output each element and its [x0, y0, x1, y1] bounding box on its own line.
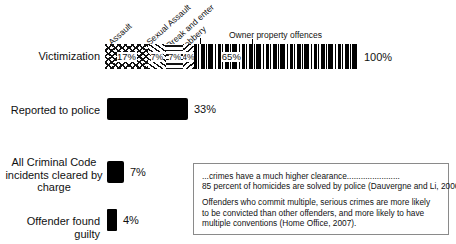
note-paragraph2-line2: to be convicted than other offenders, an…	[202, 208, 440, 218]
note-paragraph2-line3: multiple conventions (Home Office, 2007)…	[202, 218, 440, 228]
segment-callout-owner-property-offences: Owner property offences	[229, 31, 322, 40]
note-paragraph1-line1: ...crimes have a much higher clearance..…	[202, 171, 440, 181]
segment-value-sexual-assault: 7%	[151, 52, 163, 62]
row-label-victimization: Victimization	[8, 50, 100, 63]
segment-robbery: 4%	[183, 44, 193, 69]
row-label-reported-to-police: Reported to police	[8, 104, 100, 117]
row-label-cleared-by-charge: All Criminal Code incidents cleared by c…	[4, 156, 104, 194]
bar-cleared-by-charge	[107, 161, 124, 183]
victimization-stacked-bar: 17% 7% 7% 4% 65%	[105, 44, 358, 69]
row-value-victimization: 100%	[364, 52, 392, 63]
row-value-offender-found-guilty: 4%	[123, 215, 139, 226]
segment-sexual-assault: 7%	[148, 44, 166, 69]
row-label-offender-found-guilty: Offender found guilty	[2, 215, 100, 240]
segment-value-break-and-enter: 7%	[168, 52, 180, 62]
note-box: ...crimes have a much higher clearance..…	[193, 163, 449, 235]
segment-value-owner-property-offences: 65%	[221, 52, 241, 62]
segment-break-and-enter: 7%	[166, 44, 184, 69]
segment-assault: 17%	[105, 44, 148, 69]
segment-owner-property-offences: 65%	[194, 44, 358, 69]
row-value-reported-to-police: 33%	[194, 104, 216, 115]
segment-value-robbery: 4%	[183, 52, 193, 62]
chart-canvas: Assault Sexual Assault Break and enter R…	[0, 0, 456, 244]
bar-reported-to-police	[107, 98, 188, 120]
bar-offender-found-guilty	[107, 209, 117, 231]
row-value-cleared-by-charge: 7%	[130, 167, 146, 178]
note-paragraph1-line2: 85 percent of homicides are solved by po…	[202, 181, 440, 191]
segment-value-assault: 17%	[116, 52, 136, 62]
note-paragraph2-line1: Offenders who commit multiple, serious c…	[202, 197, 440, 207]
